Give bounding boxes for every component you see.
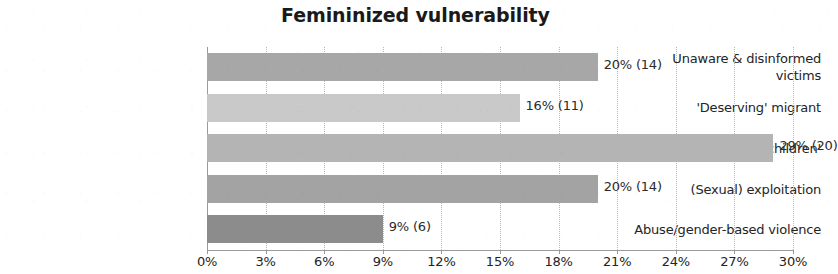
x-tick-label: 9% — [373, 254, 393, 269]
bar-row: 9% (6) — [207, 209, 793, 249]
x-axis-tick-labels: 0%3%6%9%12%15%18%21%24%27%30% — [0, 254, 831, 274]
x-tick-label: 3% — [255, 254, 275, 269]
x-tick-label: 12% — [427, 254, 455, 269]
bar — [207, 175, 598, 203]
bar — [207, 94, 520, 122]
bar-value-label: 20% (14) — [604, 57, 662, 72]
x-tick-label: 30% — [779, 254, 807, 269]
bar-row: 16% (11) — [207, 88, 793, 128]
bar-value-label: 20% (14) — [604, 179, 662, 194]
bar-row: 29% (20) — [207, 128, 793, 168]
x-tick-label: 24% — [662, 254, 690, 269]
x-tick-label: 21% — [603, 254, 631, 269]
x-tick-label: 6% — [314, 254, 334, 269]
bar-row: 20% (14) — [207, 169, 793, 209]
chart-title: Femininized vulnerability — [0, 4, 831, 26]
bar-value-label: 16% (11) — [526, 98, 584, 113]
x-tick-label: 0% — [197, 254, 217, 269]
x-tick-label: 27% — [720, 254, 748, 269]
bar-value-label: 9% (6) — [389, 219, 431, 234]
bar — [207, 53, 598, 81]
bar — [207, 215, 383, 243]
bar — [207, 134, 773, 162]
plot-area: 20% (14)16% (11)29% (20)20% (14)9% (6) — [207, 47, 793, 250]
x-tick-label: 18% — [544, 254, 572, 269]
bar-value-label: 29% (20) — [779, 138, 837, 153]
bar-row: 20% (14) — [207, 47, 793, 87]
x-tick-label: 15% — [486, 254, 514, 269]
